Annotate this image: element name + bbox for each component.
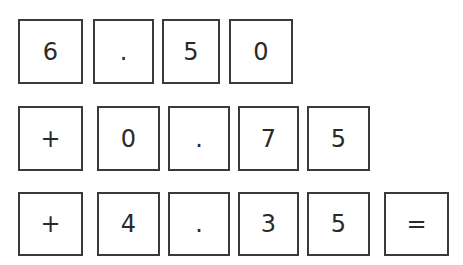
digit-text: 5 [331, 212, 346, 236]
plus-operator-box: + [18, 106, 83, 171]
digit-text: 6 [43, 40, 58, 64]
decimal-point-box: . [93, 19, 154, 84]
digit-box: 4 [97, 192, 160, 256]
digit-text: 0 [253, 40, 268, 64]
digit-box: 6 [18, 19, 83, 84]
digit-text: 0 [121, 127, 136, 151]
equals-icon: = [406, 212, 426, 236]
digit-box: 0 [229, 19, 293, 84]
equals-operator-box: = [384, 192, 449, 256]
decimal-point-box: . [168, 106, 230, 171]
digit-text: 7 [261, 127, 276, 151]
plus-icon: + [40, 127, 60, 151]
decimal-point-text: . [195, 212, 203, 236]
digit-text: 5 [331, 127, 346, 151]
digit-box: 5 [307, 192, 370, 256]
decimal-point-box: . [168, 192, 230, 256]
digit-box: 7 [238, 106, 299, 171]
digit-box: 5 [162, 19, 220, 84]
digit-text: 3 [261, 212, 276, 236]
digit-box: 5 [307, 106, 370, 171]
digit-text: 5 [183, 40, 198, 64]
plus-operator-box: + [18, 192, 83, 256]
plus-icon: + [40, 212, 60, 236]
decimal-point-text: . [120, 40, 128, 64]
digit-box: 0 [97, 106, 160, 171]
decimal-point-text: . [195, 127, 203, 151]
digit-box: 3 [238, 192, 299, 256]
digit-text: 4 [121, 212, 136, 236]
